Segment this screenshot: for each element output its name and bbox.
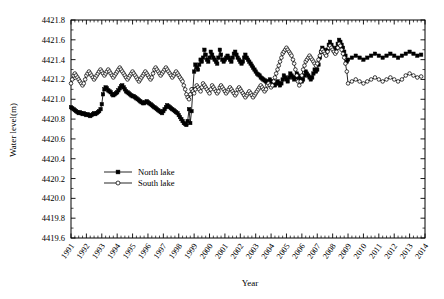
x-tick-label: 2014 (413, 242, 430, 261)
series-south-lake (69, 42, 423, 101)
y-tick-label: 4421.8 (42, 15, 65, 25)
x-tick-label: 1992 (75, 242, 92, 261)
axes (71, 20, 425, 238)
x-tick-label: 2004 (259, 242, 276, 261)
x-tick-label: 2001 (213, 242, 230, 261)
x-tick-label: 2005 (275, 242, 292, 261)
y-tick-label: 4421.2 (42, 74, 65, 84)
y-axis-tick-labels: 4419.64419.84420.04420.24420.44420.64420… (42, 15, 66, 243)
x-tick-label: 2007 (306, 242, 323, 261)
y-tick-label: 4419.6 (42, 233, 65, 243)
y-axis-ticks (71, 20, 425, 238)
chart-legend: North lakeSouth lake (104, 167, 175, 188)
x-axis-tick-labels: 1991199219931994199519961997199819992000… (59, 242, 430, 261)
x-tick-label: 1995 (121, 242, 138, 261)
data-series (69, 38, 423, 127)
x-axis-title: Year (242, 278, 259, 288)
x-tick-label: 2003 (244, 242, 261, 261)
x-tick-label: 1991 (59, 242, 76, 261)
legend-item-south-lake: South lake (104, 178, 175, 188)
y-tick-label: 4420.6 (42, 134, 65, 144)
y-tick-label: 4419.8 (42, 213, 65, 223)
x-tick-label: 1993 (90, 242, 107, 261)
x-tick-label: 2006 (290, 242, 307, 261)
x-axis-ticks (71, 20, 425, 238)
x-tick-label: 2012 (383, 242, 400, 261)
legend-label: North lake (138, 167, 175, 177)
x-tick-label: 2010 (352, 242, 369, 261)
y-tick-label: 4421.0 (42, 94, 65, 104)
y-axis-title: Water level(m) (8, 103, 18, 157)
y-tick-label: 4420.2 (42, 174, 65, 184)
water-level-line-chart: 4419.64419.84420.04420.24420.44420.64420… (0, 0, 444, 299)
x-tick-label: 1997 (152, 242, 169, 261)
x-tick-label: 2008 (321, 242, 338, 261)
x-tick-label: 2013 (398, 242, 415, 261)
x-tick-label: 2002 (229, 242, 246, 261)
x-tick-label: 2009 (336, 242, 353, 261)
y-tick-label: 4420.8 (42, 114, 65, 124)
series-north-lake (69, 38, 423, 127)
x-tick-label: 2011 (367, 242, 384, 260)
chart-figure: 4419.64419.84420.04420.24420.44420.64420… (0, 0, 444, 299)
x-tick-label: 1994 (106, 242, 123, 261)
y-tick-label: 4421.6 (42, 35, 65, 45)
x-tick-label: 1996 (136, 242, 153, 261)
legend-item-north-lake: North lake (104, 167, 175, 177)
y-tick-label: 4420.4 (42, 154, 66, 164)
y-tick-label: 4420.0 (42, 193, 65, 203)
y-tick-label: 4421.4 (42, 55, 66, 65)
legend-label: South lake (138, 178, 175, 188)
x-tick-label: 1999 (183, 242, 200, 261)
x-tick-label: 1998 (167, 242, 184, 261)
x-tick-label: 2000 (198, 242, 215, 261)
